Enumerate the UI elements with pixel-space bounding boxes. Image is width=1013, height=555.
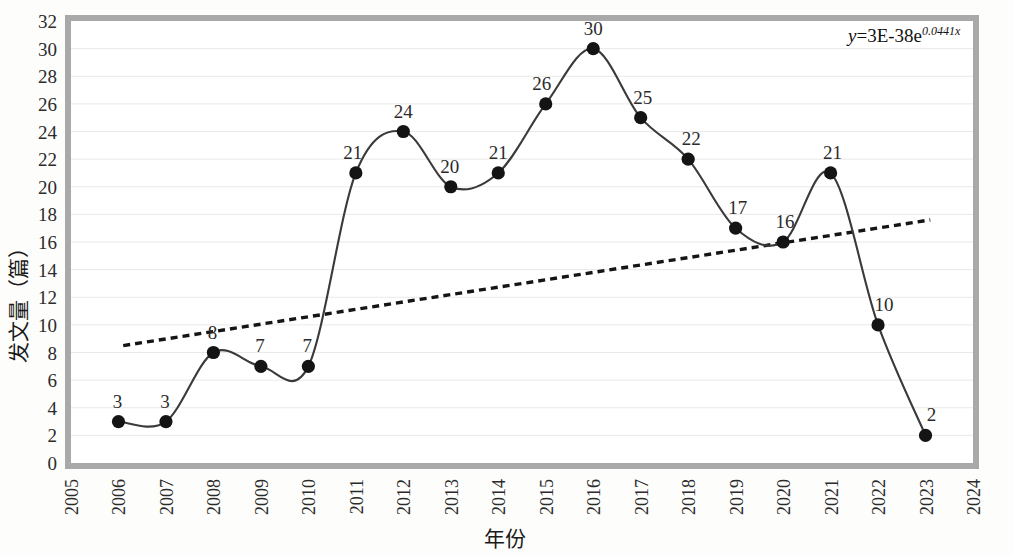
data-point-marker xyxy=(302,360,315,373)
data-point-marker xyxy=(587,42,600,55)
x-axis-tick-labels: 2005200620072008200920102011201220132014… xyxy=(62,479,984,515)
x-axis-tick-label: 2006 xyxy=(109,479,129,515)
x-axis-title: 年份 xyxy=(484,527,526,550)
data-point-marker xyxy=(824,166,837,179)
x-axis-tick-label: 2010 xyxy=(299,479,319,515)
equation-exponent: 0.0441x xyxy=(922,24,961,38)
y-axis-tick-label: 14 xyxy=(38,260,58,281)
publication-count-line-chart: 02468101214161820222426283032 2005200620… xyxy=(0,0,1013,555)
x-axis-tick-label: 2012 xyxy=(394,479,414,515)
y-axis-tick-label: 10 xyxy=(38,315,57,336)
y-axis-tick-label: 8 xyxy=(48,343,58,364)
data-point-marker xyxy=(492,166,505,179)
data-point-value-label: 20 xyxy=(440,156,459,177)
data-point-value-label: 16 xyxy=(776,211,795,232)
x-axis-tick-label: 2023 xyxy=(917,479,937,515)
data-point-marker xyxy=(254,360,267,373)
x-axis-tick-label: 2020 xyxy=(774,479,794,515)
data-point-value-label: 8 xyxy=(208,322,218,343)
y-axis-tick-labels: 02468101214161820222426283032 xyxy=(38,11,58,474)
x-axis-tick-label: 2024 xyxy=(964,479,984,515)
x-axis-tick-label: 2011 xyxy=(347,479,367,514)
data-point-marker xyxy=(871,318,884,331)
y-axis-title: 发文量（篇） xyxy=(7,237,30,363)
data-point-marker xyxy=(444,180,457,193)
x-axis-tick-label: 2021 xyxy=(822,479,842,515)
data-point-marker xyxy=(207,346,220,359)
y-axis-tick-label: 26 xyxy=(38,94,57,115)
y-axis-tick-label: 18 xyxy=(38,204,57,225)
data-point-value-label: 10 xyxy=(875,294,894,315)
data-point-marker xyxy=(682,153,695,166)
x-axis-tick-label: 2015 xyxy=(537,479,557,515)
data-point-value-label: 7 xyxy=(303,335,313,356)
data-point-marker xyxy=(777,235,790,248)
y-axis-tick-label: 22 xyxy=(38,149,57,170)
y-axis-tick-label: 6 xyxy=(48,370,58,391)
data-point-value-label: 3 xyxy=(113,391,123,412)
y-axis-tick-label: 28 xyxy=(38,66,57,87)
data-point-value-label: 3 xyxy=(160,391,170,412)
x-axis-tick-label: 2013 xyxy=(442,479,462,515)
x-axis-tick-label: 2017 xyxy=(632,479,652,515)
x-axis-tick-label: 2005 xyxy=(62,479,82,515)
equation-body: =3E-38e xyxy=(856,25,922,46)
data-point-value-label: 17 xyxy=(728,197,747,218)
x-axis-tick-label: 2014 xyxy=(489,479,509,515)
y-axis-tick-label: 4 xyxy=(48,398,58,419)
data-point-marker xyxy=(919,429,932,442)
data-point-value-label: 26 xyxy=(532,73,551,94)
x-axis-tick-label: 2008 xyxy=(204,479,224,515)
data-point-marker xyxy=(729,222,742,235)
equation-variable-y: y xyxy=(846,25,857,46)
data-point-value-label: 30 xyxy=(584,18,603,39)
data-point-value-label: 25 xyxy=(633,87,652,108)
y-axis-tick-label: 2 xyxy=(48,425,58,446)
data-point-value-label: 24 xyxy=(394,101,414,122)
data-point-marker xyxy=(159,415,172,428)
data-point-marker xyxy=(349,166,362,179)
y-axis-tick-label: 30 xyxy=(38,39,57,60)
x-axis-tick-label: 2016 xyxy=(584,479,604,515)
data-point-marker xyxy=(397,125,410,138)
y-axis-tick-label: 12 xyxy=(38,287,57,308)
x-axis-tick-label: 2022 xyxy=(869,479,889,515)
data-point-value-label: 22 xyxy=(682,128,701,149)
x-axis-tick-label: 2007 xyxy=(157,479,177,515)
y-axis-tick-label: 0 xyxy=(48,453,58,474)
data-point-value-label: 7 xyxy=(255,335,265,356)
data-point-value-label: 21 xyxy=(823,142,842,163)
x-axis-tick-label: 2018 xyxy=(679,479,699,515)
x-axis-tick-label: 2009 xyxy=(252,479,272,515)
y-axis-tick-label: 20 xyxy=(38,177,57,198)
data-point-marker xyxy=(539,97,552,110)
data-point-value-label: 2 xyxy=(927,404,937,425)
data-point-value-label: 21 xyxy=(343,142,362,163)
x-axis-tick-label: 2019 xyxy=(727,479,747,515)
y-axis-tick-label: 16 xyxy=(38,232,57,253)
y-axis-tick-label: 24 xyxy=(38,122,58,143)
y-axis-tick-label: 32 xyxy=(38,11,57,32)
data-point-value-label: 21 xyxy=(489,142,508,163)
data-point-marker xyxy=(112,415,125,428)
data-point-marker xyxy=(634,111,647,124)
